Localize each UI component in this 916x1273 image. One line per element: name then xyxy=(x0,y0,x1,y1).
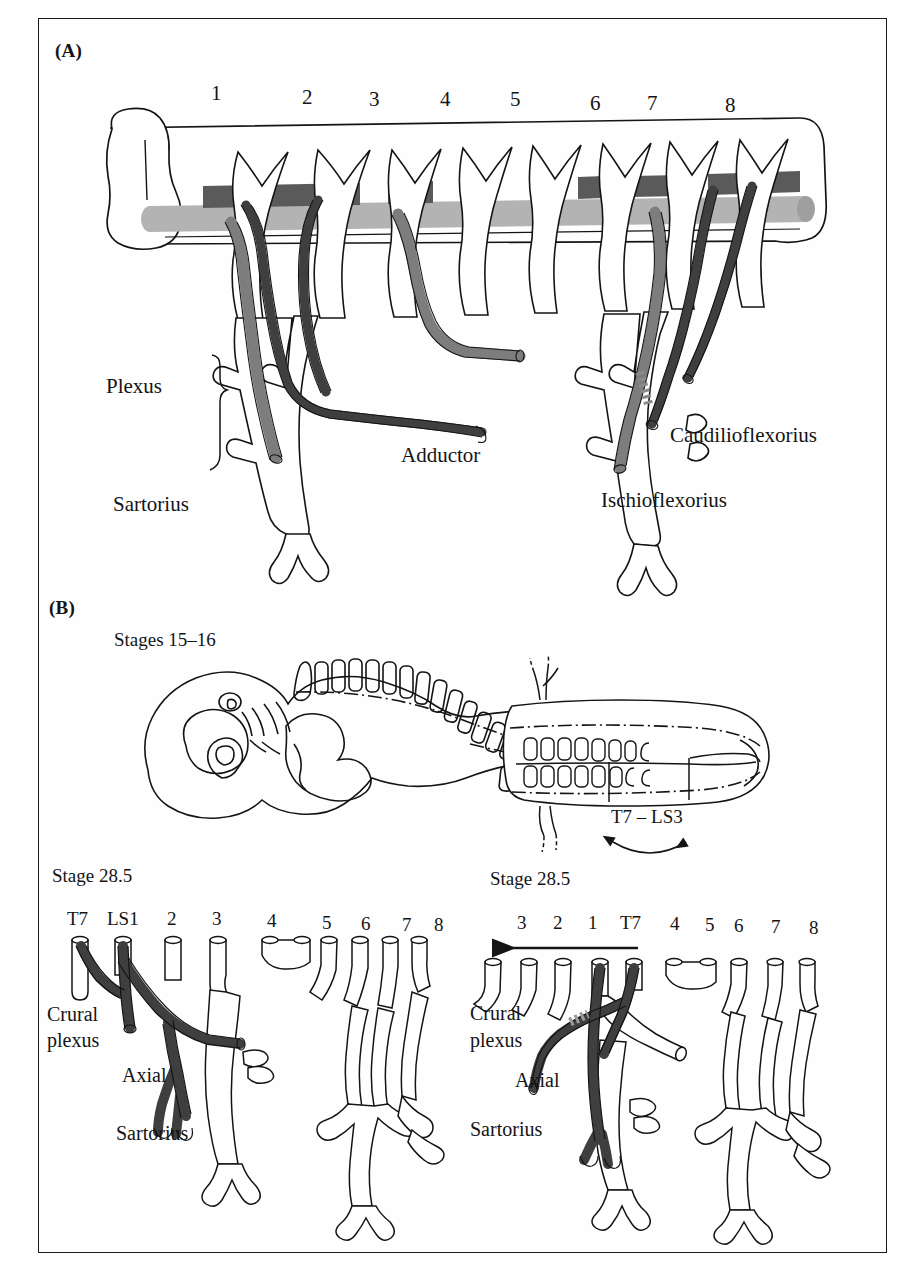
panel-a-segment-number-2: 2 xyxy=(302,86,313,110)
panel-a-segment-number-3: 3 xyxy=(369,88,380,112)
right-plexus-trunks xyxy=(592,996,830,1244)
right-sartorius-label: Sartorius xyxy=(470,1118,542,1140)
left-root-label-3: 3 xyxy=(212,908,222,929)
left-axial-label: Axial xyxy=(122,1064,166,1086)
panel-a-segment-number-6: 6 xyxy=(590,92,601,116)
embryo-stage-label: Stages 15–16 xyxy=(114,629,216,650)
panel-b-letter: (B) xyxy=(49,597,75,618)
left-root-label-8: 8 xyxy=(434,914,444,935)
panel-a-segment-number-8: 8 xyxy=(725,94,736,118)
right-root-label-t7: T7 xyxy=(620,912,641,933)
panel-a-letter: (A) xyxy=(55,40,82,61)
adductor-label: Adductor xyxy=(401,444,480,468)
right-root-label-8: 8 xyxy=(809,917,819,938)
left-root-label-5: 5 xyxy=(322,912,332,933)
right-crural-plexus-label-line1: Crural xyxy=(470,1002,521,1024)
left-root-label-2: 2 xyxy=(167,908,177,929)
left-crural-plexus-label-line1: Crural xyxy=(47,1003,98,1025)
sartorius-label-a: Sartorius xyxy=(113,493,189,517)
right-plexus-stage-label: Stage 28.5 xyxy=(490,868,570,889)
ischioflexorius-label: Ischioflexorius xyxy=(601,489,727,513)
panel-a-segment-number-4: 4 xyxy=(440,88,451,112)
right-axial-label: Axial xyxy=(515,1069,559,1091)
plexus-label: Plexus xyxy=(106,375,162,399)
right-root-label-6: 6 xyxy=(734,915,744,936)
left-root-label-4: 4 xyxy=(267,910,277,931)
right-root-label-7: 7 xyxy=(771,916,781,937)
left-sartorius-label: Sartorius xyxy=(116,1122,188,1144)
caudilioflexorius-label: Caudilioflexorius xyxy=(670,424,817,448)
right-root-label-4: 4 xyxy=(670,913,680,934)
right-crural-plexus-label-line2: plexus xyxy=(470,1029,522,1051)
left-root-label-7: 7 xyxy=(402,914,412,935)
left-root-label-t7: T7 xyxy=(67,908,88,929)
panel-a-segment-number-1: 1 xyxy=(211,82,222,106)
left-plexus-stage-label: Stage 28.5 xyxy=(52,865,132,886)
left-root-label-ls1: LS1 xyxy=(107,908,139,929)
right-root-label-3: 3 xyxy=(517,912,527,933)
panel-a-segment-number-7: 7 xyxy=(647,92,658,116)
left-plexus-trunks xyxy=(202,990,444,1240)
t7-ls3-label: T7 – LS3 xyxy=(611,806,683,827)
panel-b-tail-graft xyxy=(503,700,769,806)
right-root-label-2: 2 xyxy=(553,912,563,933)
right-root-label-5: 5 xyxy=(705,914,715,935)
left-crural-plexus-label-line2: plexus xyxy=(47,1029,99,1051)
figure-root: (A) 1 2 3 4 5 6 7 8 Plexus Sartorius Add… xyxy=(0,0,916,1273)
right-plexus-roots xyxy=(474,959,818,1020)
panel-a-segment-number-5: 5 xyxy=(510,88,521,112)
right-root-label-1: 1 xyxy=(588,912,598,933)
left-root-label-6: 6 xyxy=(361,913,371,934)
